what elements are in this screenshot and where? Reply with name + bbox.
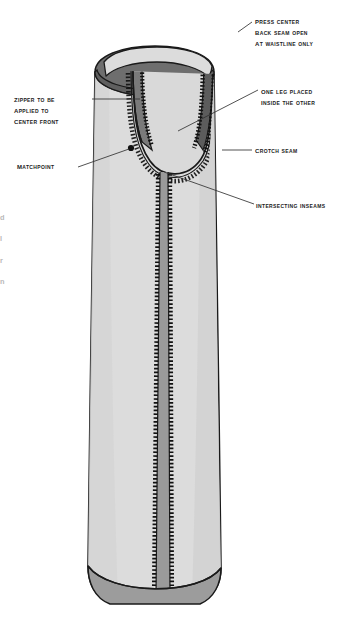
- callout-matchpoint: Matchpoint: [17, 161, 54, 172]
- leader-press-center-back: [238, 22, 252, 32]
- callout-line: center front: [14, 116, 59, 127]
- edge-text-fragment: n: [0, 277, 5, 286]
- callout-line: back seam open: [255, 27, 313, 38]
- callout-one-leg-placed-inside: One leg placed inside the other: [261, 86, 315, 108]
- callout-line: at waistline only: [255, 38, 313, 49]
- matchpoint-dot: [128, 145, 134, 151]
- callout-line: Press center: [255, 16, 313, 27]
- callout-line: inside the other: [261, 97, 315, 108]
- callout-line: One leg placed: [261, 86, 315, 97]
- callout-line: Matchpoint: [17, 161, 54, 172]
- edge-text-fragment: l: [0, 234, 5, 243]
- callout-intersecting-inseams: Intersecting inseams: [256, 200, 325, 211]
- inseam-group: [154, 172, 172, 596]
- edge-text-fragment: r: [0, 256, 5, 265]
- callout-zipper-to-be-applied: Zipper to be applied to center front: [14, 94, 59, 128]
- callout-crotch-seam: Crotch seam: [255, 145, 297, 156]
- edge-text-fragment: d: [0, 213, 5, 222]
- callout-line: Zipper to be: [14, 94, 59, 105]
- callout-line: Intersecting inseams: [256, 200, 325, 211]
- callout-press-center-back-seam: Press center back seam open at waistline…: [255, 16, 313, 50]
- callout-line: applied to: [14, 105, 59, 116]
- callout-line: Crotch seam: [255, 145, 297, 156]
